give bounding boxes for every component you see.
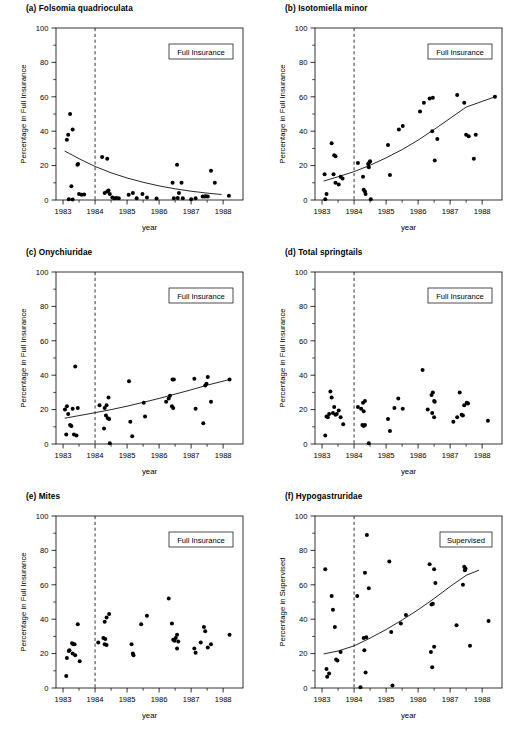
- data-point: [128, 420, 132, 424]
- y-tick-label: 100: [295, 268, 308, 277]
- data-point: [429, 650, 433, 654]
- data-point: [203, 629, 207, 633]
- data-point: [201, 421, 205, 425]
- x-tick-label: 1988: [215, 451, 232, 460]
- data-point: [82, 193, 86, 197]
- data-point: [76, 162, 80, 166]
- data-point: [335, 412, 339, 416]
- x-tick-label: 1987: [183, 451, 200, 460]
- data-point: [401, 124, 405, 128]
- x-axis-title: year: [142, 467, 158, 476]
- data-point: [171, 406, 175, 410]
- data-point: [206, 375, 210, 379]
- data-point: [164, 400, 168, 404]
- x-axis-title: year: [401, 711, 417, 720]
- data-point: [330, 594, 334, 598]
- data-point: [433, 400, 437, 404]
- data-point: [468, 644, 472, 648]
- data-point: [105, 403, 109, 407]
- data-point: [64, 674, 68, 678]
- data-point: [332, 405, 336, 409]
- y-tick-label: 80: [40, 546, 48, 555]
- data-point: [209, 400, 213, 404]
- data-point: [361, 175, 365, 179]
- panel-a: (a) Folsomia quadrioculata 0204060801001…: [0, 0, 259, 244]
- data-point: [78, 659, 82, 663]
- data-point: [135, 196, 139, 200]
- y-tick-label: 60: [299, 581, 307, 590]
- data-point: [355, 594, 359, 598]
- data-point: [192, 646, 196, 650]
- x-axis-title: year: [142, 223, 158, 232]
- y-tick-label: 0: [44, 196, 48, 205]
- data-point: [435, 137, 439, 141]
- x-tick-label: 1987: [442, 695, 459, 704]
- y-tick-label: 80: [299, 546, 307, 555]
- data-point: [462, 101, 466, 105]
- trend-line: [65, 151, 222, 195]
- panel-e-plot: 020406080100198319841985198619871988year…: [0, 488, 259, 732]
- legend-label: Full Insurance: [436, 292, 484, 301]
- panel-e: (e) Mites 020406080100198319841985198619…: [0, 488, 259, 732]
- x-axis-title: year: [142, 711, 158, 720]
- data-point: [418, 109, 422, 113]
- data-point: [461, 583, 465, 587]
- data-point: [74, 433, 78, 437]
- y-tick-label: 100: [36, 24, 49, 33]
- y-tick-label: 0: [303, 196, 307, 205]
- data-point: [325, 192, 329, 196]
- y-axis-title: Percentage in Full Insurance: [278, 308, 287, 407]
- data-point: [143, 414, 147, 418]
- data-point: [73, 642, 77, 646]
- data-point: [323, 567, 327, 571]
- data-point: [323, 172, 327, 176]
- data-point: [100, 155, 104, 159]
- data-point: [430, 129, 434, 133]
- data-point: [330, 141, 334, 145]
- data-point: [362, 648, 366, 652]
- data-point: [356, 161, 360, 165]
- y-tick-label: 40: [40, 127, 48, 136]
- data-point: [105, 157, 109, 161]
- y-axis-title: Percentage in Full Insurance: [278, 64, 287, 163]
- data-point: [332, 172, 336, 176]
- y-axis-title: Percentage in Full Insurance: [19, 308, 28, 407]
- x-tick-label: 1987: [442, 451, 459, 460]
- data-point: [472, 157, 476, 161]
- x-axis-title: year: [401, 223, 417, 232]
- x-tick-label: 1983: [314, 695, 331, 704]
- data-point: [333, 154, 337, 158]
- data-point: [205, 382, 209, 386]
- data-point: [363, 423, 367, 427]
- data-point: [390, 683, 394, 687]
- x-tick-label: 1988: [474, 695, 491, 704]
- x-tick-label: 1984: [87, 695, 104, 704]
- data-point: [209, 169, 213, 173]
- panel-a-plot: 020406080100198319841985198619871988year…: [0, 0, 259, 244]
- x-tick-label: 1985: [378, 451, 395, 460]
- data-point: [66, 133, 70, 137]
- data-point: [421, 368, 425, 372]
- data-point: [213, 181, 217, 185]
- data-point: [486, 419, 490, 423]
- data-point: [474, 133, 478, 137]
- data-point: [455, 623, 459, 627]
- x-tick-label: 1986: [151, 451, 168, 460]
- x-tick-label: 1988: [474, 207, 491, 216]
- data-point: [464, 566, 468, 570]
- data-point: [145, 195, 149, 199]
- y-tick-label: 20: [40, 649, 48, 658]
- x-axis-title: year: [401, 467, 417, 476]
- data-point: [364, 671, 368, 675]
- y-tick-label: 100: [36, 512, 49, 521]
- data-point: [105, 615, 109, 619]
- legend-label: Supervised: [447, 536, 485, 545]
- legend-label: Full Insurance: [177, 292, 225, 301]
- data-point: [175, 646, 179, 650]
- y-tick-label: 60: [40, 337, 48, 346]
- data-point: [176, 640, 180, 644]
- figure-six-panel-scatter: (a) Folsomia quadrioculata 0204060801001…: [0, 0, 518, 733]
- y-tick-label: 100: [295, 24, 308, 33]
- y-tick-label: 40: [299, 371, 307, 380]
- data-point: [108, 441, 112, 445]
